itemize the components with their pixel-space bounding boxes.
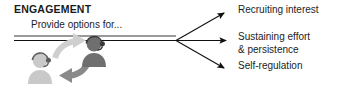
outcome-label-recruiting-interest: Recruiting interest: [238, 4, 319, 17]
outcome-line-1: Sustaining effort: [238, 31, 310, 44]
engagement-diagram: ENGAGEMENT Provide options for...: [0, 0, 347, 87]
outcome-line-2: & persistence: [238, 44, 310, 57]
outcome-label-self-regulation: Self-regulation: [238, 60, 302, 73]
outcome-line-1: Recruiting interest: [238, 4, 319, 17]
outcome-label-sustaining-effort: Sustaining effort & persistence: [238, 31, 310, 56]
person-headset-dark-icon: [82, 37, 106, 67]
outcome-line-1: Self-regulation: [238, 60, 302, 73]
person-headset-light-icon: [28, 53, 52, 84]
curved-arrow-up-right-icon: [55, 33, 86, 58]
